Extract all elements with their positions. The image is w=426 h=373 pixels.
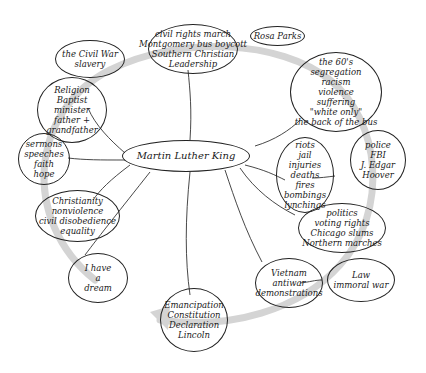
node-text: Religion [54, 85, 90, 95]
node-text: FBI [370, 150, 386, 160]
node-emancipation[interactable]: Emancipation Constitution Declaration Li… [160, 288, 228, 352]
node-text: Rosa Parks [254, 31, 302, 41]
node-text: speeches [24, 149, 64, 159]
node-text: nonviolence [52, 206, 104, 216]
node-text: bombings [284, 190, 326, 200]
node-text: Vietnam [271, 268, 307, 278]
node-text: demonstrations [255, 288, 322, 298]
node-text: deaths [291, 170, 320, 180]
node-text: equality [60, 226, 95, 236]
node-sermons[interactable]: sermons speeches faith hope [18, 133, 70, 185]
node-text: politics [326, 208, 357, 218]
node-text: Montgomery bus boycott [139, 39, 247, 49]
node-text: hope [33, 169, 54, 179]
node-text: police [365, 140, 391, 150]
node-text: Southern Christian [152, 49, 234, 59]
node-text: jail [298, 150, 311, 160]
node-text: immoral war [334, 280, 389, 290]
node-text: dream [84, 283, 112, 293]
node-text: minister [54, 105, 90, 115]
node-text: slavery [75, 59, 106, 69]
node-vietnam[interactable]: Vietnam antiwar demonstrations [255, 258, 323, 308]
node-rosa-parks[interactable]: Rosa Parks [250, 26, 305, 46]
node-text: sermons [26, 139, 62, 149]
node-text: "white only" [310, 107, 363, 117]
node-christianity[interactable]: Christianity nonviolence civil disobedie… [35, 190, 120, 242]
node-text: riots [295, 140, 315, 150]
node-civil-war[interactable]: the Civil War slavery [55, 40, 125, 78]
node-text: civil rights march [155, 29, 231, 39]
node-text: Constitution [167, 310, 220, 320]
node-text: I have [85, 263, 111, 273]
node-text: segregation [310, 67, 361, 77]
node-law[interactable]: Law immoral war [327, 258, 395, 302]
mind-map-canvas: Martin Luther King the Civil War slavery… [0, 0, 426, 373]
node-text: the 60's [319, 57, 353, 67]
node-civil-rights[interactable]: civil rights march Montgomery bus boycot… [148, 24, 238, 74]
node-text: a [95, 273, 100, 283]
node-text: injuries [289, 160, 321, 170]
node-text: Law [352, 270, 370, 280]
node-text: Chicago slums [311, 228, 374, 238]
center-label: Martin Luther King [137, 151, 236, 161]
node-text: fires [295, 180, 314, 190]
node-text: Emancipation [164, 300, 224, 310]
node-text: Northern marches [302, 238, 382, 248]
node-dream[interactable]: I have a dream [68, 253, 128, 303]
node-text: Hoover [362, 170, 394, 180]
node-text: J. Edgar [361, 160, 395, 170]
node-text: antiwar [272, 278, 305, 288]
node-text: violence [318, 87, 354, 97]
node-text: faith [34, 159, 54, 169]
node-text: suffering [317, 97, 356, 107]
node-text: Christianity [52, 196, 103, 206]
node-text: Lincoln [178, 330, 210, 340]
node-riots[interactable]: riots jail injuries deaths fires bombing… [276, 137, 334, 213]
node-text: the Civil War [62, 49, 118, 59]
node-sixties[interactable]: the 60's segregation racism violence suf… [290, 52, 382, 132]
node-text: voting rights [314, 218, 369, 228]
node-text: racism [321, 77, 350, 87]
node-text: grandfather [46, 125, 98, 135]
node-text: civil disobedience [39, 216, 116, 226]
center-node[interactable]: Martin Luther King [122, 140, 250, 172]
node-text: Leadership [169, 59, 217, 69]
node-text: father + [54, 115, 90, 125]
node-politics[interactable]: politics voting rights Chicago slums Nor… [298, 203, 386, 253]
node-text: Baptist [57, 95, 88, 105]
node-text: Declaration [169, 320, 219, 330]
node-police[interactable]: police FBI J. Edgar Hoover [350, 130, 406, 190]
node-text: the back of the bus [295, 117, 378, 127]
